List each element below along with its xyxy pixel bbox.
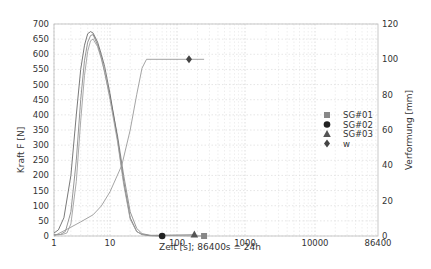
y-tick-label: 50 bbox=[38, 216, 49, 226]
triangle-legend-icon bbox=[323, 130, 331, 137]
y2-tick-label: 80 bbox=[382, 90, 393, 100]
x-tick-label: 10000 bbox=[301, 238, 328, 248]
y-tick-label: 450 bbox=[33, 95, 49, 105]
y-tick-label: 600 bbox=[33, 49, 49, 59]
y-tick-label: 500 bbox=[33, 80, 49, 90]
x-axis-label: Zeit [s]; 86400s = 24h bbox=[159, 242, 261, 252]
y-axis-label: Kraft F [N] bbox=[16, 127, 26, 173]
triangle-marker-icon bbox=[191, 230, 199, 237]
circle-legend-icon bbox=[324, 121, 331, 128]
series-line-sg02 bbox=[54, 32, 162, 236]
y2-tick-label: 100 bbox=[382, 54, 398, 64]
legend-label: SG#03 bbox=[343, 129, 373, 139]
y-tick-label: 400 bbox=[33, 110, 49, 120]
legend: SG#01SG#02SG#03w bbox=[323, 110, 373, 149]
y-tick-label: 150 bbox=[33, 186, 49, 196]
x-tick-label: 86400 bbox=[364, 238, 391, 248]
y2-tick-label: 40 bbox=[382, 160, 393, 170]
y2-tick-label: 20 bbox=[382, 196, 393, 206]
y-tick-label: 200 bbox=[33, 170, 49, 180]
y-tick-label: 700 bbox=[33, 19, 49, 29]
diamond-marker-icon bbox=[186, 55, 192, 63]
square-marker-icon bbox=[201, 233, 207, 239]
legend-label: w bbox=[343, 139, 350, 149]
x-tick-label: 10 bbox=[105, 238, 116, 248]
legend-label: SG#02 bbox=[343, 120, 373, 130]
legend-label: SG#01 bbox=[343, 110, 373, 120]
y-tick-label: 250 bbox=[33, 155, 49, 165]
y-tick-label: 100 bbox=[33, 201, 49, 211]
chart: 0501001502002503003504004505005506006507… bbox=[0, 0, 431, 269]
square-legend-icon bbox=[324, 112, 330, 118]
y-axis-ticks: 0501001502002503003504004505005506006507… bbox=[33, 19, 49, 241]
x-tick-label: 1 bbox=[51, 238, 56, 248]
y-tick-label: 0 bbox=[44, 231, 49, 241]
series-markers bbox=[159, 55, 207, 239]
y-tick-label: 550 bbox=[33, 64, 49, 74]
y-tick-label: 350 bbox=[33, 125, 49, 135]
diamond-legend-icon bbox=[324, 140, 330, 148]
y-tick-label: 650 bbox=[33, 34, 49, 44]
y-tick-label: 300 bbox=[33, 140, 49, 150]
series-lines bbox=[54, 32, 204, 236]
y2-tick-label: 120 bbox=[382, 19, 398, 29]
circle-marker-icon bbox=[159, 233, 166, 240]
y2-tick-label: 60 bbox=[382, 125, 393, 135]
y2-axis-label: Verformung [mm] bbox=[404, 90, 414, 170]
y2-axis-ticks: 020406080100120 bbox=[382, 19, 398, 241]
